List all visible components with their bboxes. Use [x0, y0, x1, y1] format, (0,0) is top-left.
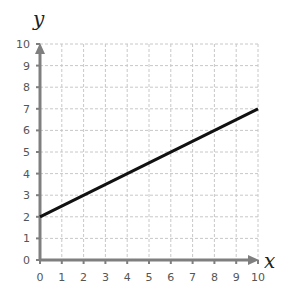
x-tick-label: 3	[102, 271, 109, 284]
y-axis-label: y	[32, 7, 45, 31]
x-tick-label: 8	[211, 271, 218, 284]
x-tick-label: 7	[189, 271, 196, 284]
line-chart: 012345678910 012345678910 x y	[0, 0, 297, 301]
y-tick-label: 0	[23, 254, 30, 267]
y-tick-label: 1	[23, 232, 30, 245]
x-tick-label: 5	[146, 271, 153, 284]
x-tick-label: 1	[58, 271, 65, 284]
y-tick-label: 8	[23, 81, 30, 94]
x-tick-label: 9	[233, 271, 240, 284]
x-tick-label: 0	[37, 271, 44, 284]
grid-lines	[40, 44, 258, 260]
x-tick-label: 4	[124, 271, 131, 284]
y-tick-label: 3	[23, 189, 30, 202]
y-tick-label: 10	[16, 38, 30, 51]
y-tick-labels: 012345678910	[16, 38, 30, 267]
x-tick-label: 10	[251, 271, 265, 284]
x-tick-labels: 012345678910	[37, 271, 266, 284]
y-tick-label: 9	[23, 60, 30, 73]
y-tick-label: 4	[23, 168, 30, 181]
y-tick-label: 5	[23, 146, 30, 159]
y-tick-label: 6	[23, 124, 30, 137]
y-tick-label: 2	[23, 211, 30, 224]
x-tick-label: 6	[167, 271, 174, 284]
x-axis-label: x	[264, 249, 275, 273]
tick-marks	[36, 44, 258, 264]
y-tick-label: 7	[23, 103, 30, 116]
x-tick-label: 2	[80, 271, 87, 284]
axes	[35, 43, 259, 265]
